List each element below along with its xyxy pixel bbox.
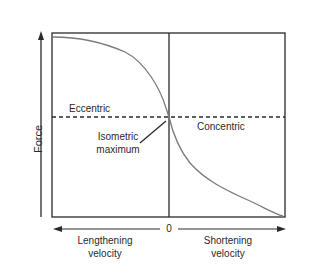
isometric-annotation-line1: Isometric: [88, 131, 148, 143]
force-axis-arrowhead-icon: [38, 31, 44, 40]
isometric-annotation-line2: maximum: [88, 144, 148, 156]
lengthening-label-line1: Lengthening: [70, 235, 140, 247]
concentric-label: Concentric: [197, 121, 245, 133]
lengthening-label-line2: velocity: [70, 248, 140, 260]
y-axis-label: Force: [32, 119, 44, 159]
shortening-label-line1: Shortening: [193, 235, 263, 247]
lengthening-arrowhead-icon: [53, 226, 62, 232]
eccentric-label: Eccentric: [69, 103, 110, 115]
shortening-arrowhead-icon: [277, 226, 286, 232]
origin-zero-label: 0: [161, 223, 177, 235]
shortening-label-line2: velocity: [193, 248, 263, 260]
force-velocity-curve: [53, 37, 283, 216]
